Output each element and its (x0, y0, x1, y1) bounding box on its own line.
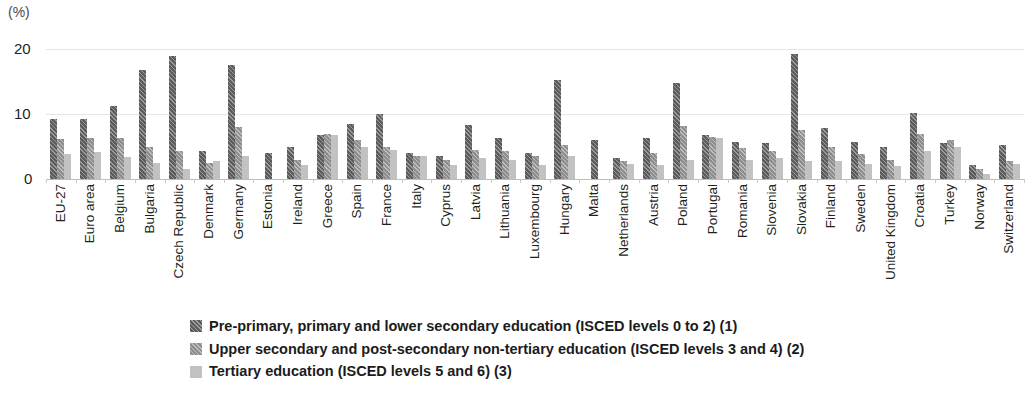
bar (924, 151, 931, 179)
x-axis-label: Germany (232, 184, 246, 240)
bar (940, 143, 947, 179)
bar (709, 137, 716, 179)
x-tick-mark (165, 179, 166, 183)
x-label-cell: Norway (965, 184, 995, 304)
bar (199, 151, 206, 179)
x-tick-mark (224, 179, 225, 183)
bar (976, 169, 983, 179)
bar (465, 125, 472, 179)
x-tick-mark (935, 179, 936, 183)
bar (894, 166, 901, 179)
bar-group (965, 49, 995, 179)
bar (613, 158, 620, 179)
bar (117, 138, 124, 179)
x-label-cell: United Kingdom (876, 184, 906, 304)
x-tick-mark (135, 179, 136, 183)
x-axis-label: Malta (588, 184, 602, 217)
bar (910, 113, 917, 179)
x-tick-mark (550, 179, 551, 183)
bar-group (46, 49, 76, 179)
bar (554, 80, 561, 179)
bar (301, 165, 308, 179)
bar-group (402, 49, 432, 179)
bar (509, 160, 516, 180)
bar (769, 151, 776, 179)
bar (80, 119, 87, 179)
x-axis-ticks (46, 179, 1024, 183)
bar (406, 153, 413, 179)
bar (791, 54, 798, 179)
x-label-cell: Austria (639, 184, 669, 304)
bar (821, 128, 828, 179)
y-tick-0: 0 (24, 170, 32, 187)
x-axis-label: Bulgaria (143, 184, 157, 234)
x-tick-mark (105, 179, 106, 183)
x-label-cell: EU-27 (46, 184, 76, 304)
x-axis-label: Euro area (84, 184, 98, 243)
bar (680, 126, 687, 179)
bar-group (668, 49, 698, 179)
bar (969, 165, 976, 179)
x-axis-label: Estonia (262, 184, 276, 229)
x-axis-label: Norway (973, 184, 987, 230)
x-label-cell: Latvia (461, 184, 491, 304)
bar (947, 140, 954, 179)
x-axis-labels: EU-27Euro areaBelgiumBulgariaCzech Repub… (46, 184, 1024, 304)
x-axis-label: Netherlands (617, 184, 631, 257)
bar (525, 153, 532, 179)
bar (539, 165, 546, 179)
bar (228, 65, 235, 179)
x-tick-mark (342, 179, 343, 183)
bar-group (817, 49, 847, 179)
bar (805, 161, 812, 179)
x-tick-mark (846, 179, 847, 183)
bar (146, 147, 153, 180)
bar (762, 143, 769, 179)
x-label-cell: Switzerland (995, 184, 1025, 304)
bar (687, 160, 694, 180)
bar-group (698, 49, 728, 179)
x-axis-label: EU-27 (54, 184, 68, 222)
x-tick-mark (76, 179, 77, 183)
legend: Pre-primary, primary and lower secondary… (190, 318, 804, 380)
bar-group (580, 49, 610, 179)
bar-groups (46, 49, 1024, 179)
legend-item-1[interactable]: Upper secondary and post-secondary non-t… (190, 341, 804, 358)
bar (176, 151, 183, 179)
x-label-cell: Romania (728, 184, 758, 304)
bar (376, 114, 383, 179)
legend-swatch-icon-1 (190, 343, 202, 355)
x-label-cell: Slovenia (757, 184, 787, 304)
bar (917, 134, 924, 180)
bar (354, 140, 361, 179)
x-axis-label: Croatia (914, 184, 928, 228)
bar (495, 138, 502, 179)
bar-group (846, 49, 876, 179)
x-label-cell: Croatia (906, 184, 936, 304)
y-tick-10: 10 (14, 105, 31, 122)
x-tick-mark (905, 179, 906, 183)
legend-item-0[interactable]: Pre-primary, primary and lower secondary… (190, 318, 804, 335)
legend-label-0: Pre-primary, primary and lower secondary… (209, 318, 737, 335)
bar (413, 156, 420, 179)
bar (383, 147, 390, 180)
bar (169, 56, 176, 180)
x-label-cell: Lithuania (491, 184, 521, 304)
legend-label-1: Upper secondary and post-secondary non-t… (209, 341, 804, 358)
x-axis-label: United Kingdom (884, 184, 898, 280)
bar (798, 130, 805, 179)
legend-swatch-icon-2 (190, 366, 202, 378)
x-tick-mark (876, 179, 877, 183)
x-tick-mark (253, 179, 254, 183)
x-tick-mark (609, 179, 610, 183)
legend-item-2[interactable]: Tertiary education (ISCED levels 5 and 6… (190, 363, 804, 380)
x-label-cell: Sweden (846, 184, 876, 304)
bar-group (728, 49, 758, 179)
x-tick-mark (402, 179, 403, 183)
x-label-cell: Denmark (194, 184, 224, 304)
bar (716, 138, 723, 179)
x-tick-mark (491, 179, 492, 183)
bar (532, 156, 539, 179)
bar (64, 154, 71, 179)
x-label-cell: Netherlands (609, 184, 639, 304)
